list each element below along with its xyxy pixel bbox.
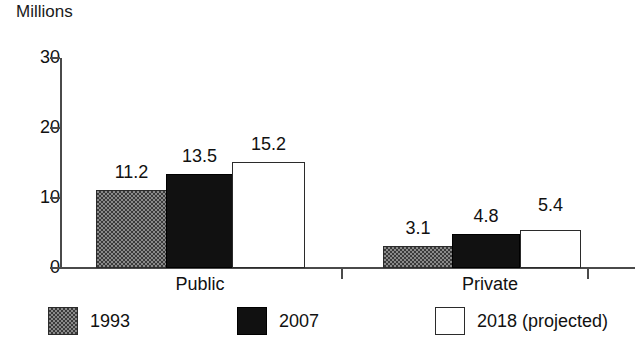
legend-item-2007: 2007 xyxy=(237,306,319,336)
bar-label-private-2007: 4.8 xyxy=(450,207,522,225)
y-tick-20: 20 xyxy=(0,127,60,129)
bar-private-1993 xyxy=(383,246,453,268)
y-tick-mark-30 xyxy=(50,57,60,59)
y-tick-mark-0 xyxy=(50,267,60,269)
bar-public-1993 xyxy=(96,190,167,268)
bar-public-2018 xyxy=(232,162,305,268)
legend-swatch-2018-icon xyxy=(435,307,465,335)
y-tick-mark-20 xyxy=(50,127,60,129)
legend-label-2007: 2007 xyxy=(279,311,319,331)
y-tick-mark-10 xyxy=(50,197,60,199)
legend-swatch-2007-icon xyxy=(237,307,267,335)
category-label-public: Public xyxy=(130,274,270,294)
category-label-private: Private xyxy=(420,274,560,294)
bar-label-public-2018: 15.2 xyxy=(232,135,305,153)
legend-item-1993: 1993 xyxy=(48,306,130,336)
bar-label-public-2007: 13.5 xyxy=(163,147,236,165)
legend-item-2018: 2018 (projected) xyxy=(435,306,608,336)
bar-private-2018 xyxy=(520,230,581,268)
y-tick-30: 30 xyxy=(0,57,60,59)
x-tick-end xyxy=(587,268,589,279)
y-tick-0: 0 xyxy=(0,267,60,269)
chart-legend: 1993 2007 2018 (projected) xyxy=(0,306,642,346)
bar-public-2007 xyxy=(166,174,233,268)
y-axis-units-label: Millions xyxy=(16,2,73,22)
legend-label-1993: 1993 xyxy=(90,311,130,331)
legend-swatch-1993-icon xyxy=(48,307,78,335)
bar-private-2007 xyxy=(452,234,520,268)
legend-label-2018: 2018 (projected) xyxy=(477,311,608,331)
bar-label-private-1993: 3.1 xyxy=(383,219,453,237)
y-tick-10: 10 xyxy=(0,197,60,199)
bar-label-private-2018: 5.4 xyxy=(518,196,583,214)
bar-label-public-1993: 11.2 xyxy=(96,163,167,181)
y-axis-line xyxy=(60,58,62,269)
x-tick-separator xyxy=(341,268,343,279)
bar-chart: Millions 30 20 10 0 11.2 13.5 15.2 Publi… xyxy=(0,0,642,355)
